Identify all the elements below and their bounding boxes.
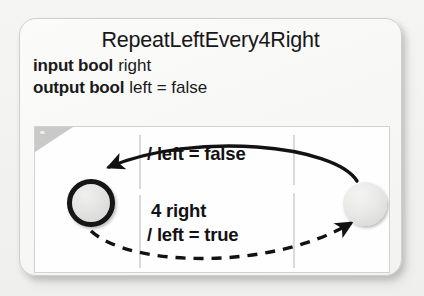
- declaration-input-keyword: input bool: [33, 56, 113, 75]
- state-machine-card: RepeatLeftEvery4Right input boolright ou…: [19, 18, 402, 276]
- transition-label-dashed-action: / left = true: [147, 226, 238, 245]
- diagram-screenshot: RepeatLeftEvery4Right input boolright ou…: [0, 0, 424, 296]
- diagram-title: RepeatLeftEvery4Right: [20, 28, 401, 53]
- declaration-output-identifier: left = false: [129, 78, 207, 97]
- transition-label-dashed-guard: 4 right: [151, 202, 206, 221]
- declaration-output: output boolleft = false: [33, 78, 401, 97]
- transition-label-solid: / left = false: [147, 145, 245, 164]
- declaration-input: input boolright: [33, 56, 401, 75]
- card-header: RepeatLeftEvery4Right input boolright ou…: [20, 19, 401, 97]
- state-node-right[interactable]: [343, 182, 387, 226]
- declaration-output-keyword: output bool: [33, 78, 124, 97]
- state-diagram-panel: / left = false 4 right / left = true: [34, 126, 390, 273]
- declaration-input-identifier: right: [118, 56, 151, 75]
- state-node-left[interactable]: [70, 182, 113, 225]
